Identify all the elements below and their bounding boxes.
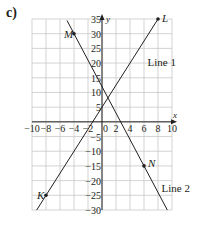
- x-tick-label: −10: [24, 123, 40, 134]
- x-tick-label: −8: [41, 123, 52, 134]
- point-l: [156, 17, 160, 21]
- x-axis-label: x: [172, 110, 177, 120]
- y-tick-label: 35: [91, 14, 101, 25]
- y-tick-label: −25: [85, 190, 101, 201]
- coordinate-graph: xy−10−8−6−4−202468103530252015105−5−10−1…: [0, 0, 202, 228]
- line-2: [67, 20, 167, 210]
- x-tick-label: −6: [55, 123, 66, 134]
- x-tick-label: 4: [128, 123, 133, 134]
- point-n-label: N: [147, 157, 156, 169]
- y-tick-label: 30: [91, 29, 101, 40]
- y-tick-label: −5: [90, 132, 101, 143]
- point-k: [44, 194, 48, 198]
- x-tick-label: 10: [167, 123, 177, 134]
- line-2-label: Line 2: [162, 182, 190, 194]
- point-l-label: L: [161, 12, 168, 24]
- y-tick-label: −30: [85, 205, 101, 216]
- x-tick-label: 6: [142, 123, 147, 134]
- x-tick-label: 8: [156, 123, 161, 134]
- point-k-label: K: [36, 189, 45, 201]
- line-1-label: Line 1: [148, 56, 176, 68]
- y-tick-label: 5: [96, 102, 101, 113]
- y-tick-label: −10: [85, 146, 101, 157]
- y-tick-label: 10: [91, 87, 101, 98]
- y-tick-label: 20: [91, 58, 101, 69]
- y-tick-label: −15: [85, 161, 101, 172]
- x-tick-label: −4: [69, 123, 80, 134]
- point-n: [142, 164, 146, 168]
- y-axis-label: y: [105, 14, 110, 24]
- x-tick-label: 2: [114, 123, 119, 134]
- point-m-label: M: [63, 28, 74, 40]
- y-tick-label: 25: [91, 43, 101, 54]
- y-tick-label: −20: [85, 176, 101, 187]
- x-tick-label: 0: [103, 123, 108, 134]
